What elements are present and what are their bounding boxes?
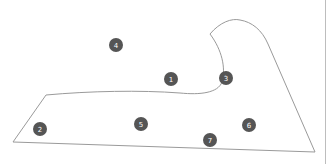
marker-5[interactable]: 5: [134, 117, 148, 131]
marker-7[interactable]: 7: [203, 133, 217, 147]
marker-label: 5: [139, 121, 143, 129]
marker-label: 2: [38, 126, 42, 134]
marker-label: 7: [208, 137, 212, 145]
marker-3[interactable]: 3: [219, 71, 233, 85]
marker-4[interactable]: 4: [109, 38, 123, 52]
marker-1[interactable]: 1: [164, 72, 178, 86]
marker-label: 3: [224, 75, 228, 83]
marker-label: 1: [169, 76, 173, 84]
region-outline: [13, 20, 315, 152]
marker-label: 6: [247, 122, 252, 130]
marker-6[interactable]: 6: [242, 118, 256, 132]
marker-label: 4: [114, 42, 119, 50]
marker-2[interactable]: 2: [33, 122, 47, 136]
diagram-canvas: 1 2 3 4 5 6 7: [0, 0, 328, 164]
